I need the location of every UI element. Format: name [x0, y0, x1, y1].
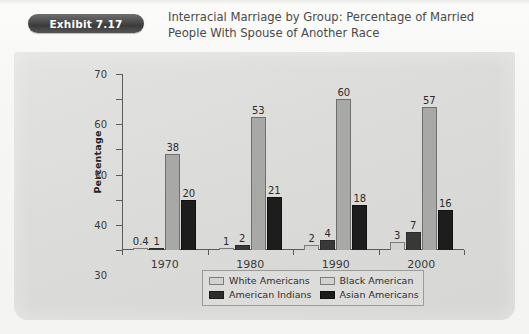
- legend-item[interactable]: White Americans: [209, 274, 312, 287]
- bar-column[interactable]: 53: [251, 74, 266, 250]
- bar-group: 3757162000: [379, 74, 465, 250]
- legend-label: American Indians: [229, 289, 312, 300]
- exhibit-header: Exhibit 7.17 Interracial Marriage by Gro…: [28, 10, 507, 54]
- bar[interactable]: [149, 248, 164, 251]
- legend-swatch: [209, 277, 224, 285]
- legend-label: Black American: [340, 275, 414, 286]
- bar-column[interactable]: 3: [390, 74, 405, 250]
- bar-group: 0.4138201970: [122, 74, 208, 250]
- bar-column[interactable]: 16: [438, 74, 453, 250]
- bar[interactable]: [336, 99, 351, 250]
- y-axis-tick-label: 70: [94, 69, 107, 80]
- bar[interactable]: [133, 248, 148, 250]
- bar-value-label: 18: [353, 193, 366, 204]
- exhibit-title: Interracial Marriage by Group: Percentag…: [168, 10, 507, 41]
- bar-value-label: 2: [239, 233, 245, 244]
- bar[interactable]: [235, 245, 250, 250]
- bar-value-label: 2: [309, 233, 315, 244]
- bar[interactable]: [181, 200, 196, 250]
- bar[interactable]: [267, 197, 282, 250]
- x-axis-tick-label: 1970: [151, 258, 179, 271]
- bar-value-label: 1: [223, 236, 229, 247]
- bar-value-label: 4: [325, 228, 331, 239]
- bar-value-label: 53: [252, 105, 265, 116]
- x-axis-tick: [379, 250, 380, 255]
- bar-column[interactable]: 18: [352, 74, 367, 250]
- exhibit-title-line-2: People With Spouse of Another Race: [168, 26, 507, 42]
- y-axis-title: Percentage: [92, 130, 103, 193]
- bar-column[interactable]: 21: [267, 74, 282, 250]
- chart-legend: White AmericansBlack AmericanAmerican In…: [202, 270, 424, 306]
- bar-group-bars: 246018: [293, 74, 379, 250]
- chart-plot-area: Percentage 010203040506070 0.41382019701…: [122, 74, 464, 250]
- legend-label: White Americans: [229, 275, 310, 286]
- bar-column[interactable]: 2: [235, 74, 250, 250]
- bar-column[interactable]: 57: [422, 74, 437, 250]
- bar-value-label: 0.4: [133, 236, 149, 247]
- bar[interactable]: [304, 245, 319, 250]
- bar[interactable]: [406, 232, 421, 250]
- bar-column[interactable]: 1: [219, 74, 234, 250]
- bar-value-label: 1: [154, 236, 160, 247]
- x-axis-tick: [464, 250, 465, 255]
- bar-column[interactable]: 7: [406, 74, 421, 250]
- bar[interactable]: [422, 107, 437, 250]
- bar-value-label: 57: [423, 95, 436, 106]
- bar-column[interactable]: 4: [320, 74, 335, 250]
- bar-value-label: 3: [394, 230, 400, 241]
- bar[interactable]: [352, 205, 367, 250]
- chart-panel: Percentage 010203040506070 0.41382019701…: [14, 52, 515, 320]
- bar[interactable]: [438, 210, 453, 250]
- bar[interactable]: [390, 242, 405, 250]
- exhibit-number-label: Exhibit 7.17: [28, 14, 144, 33]
- bar-value-label: 21: [268, 185, 281, 196]
- y-axis-tick-label: 30: [94, 270, 107, 281]
- x-axis-tick: [293, 250, 294, 255]
- bar-group-bars: 375716: [379, 74, 465, 250]
- bar-group-bars: 0.413820: [122, 74, 208, 250]
- bar[interactable]: [320, 240, 335, 250]
- bar-group: 1253211980: [208, 74, 294, 250]
- legend-item[interactable]: Asian Americans: [320, 288, 419, 301]
- bar-group-bars: 125321: [208, 74, 294, 250]
- bar[interactable]: [219, 248, 234, 251]
- legend-label: Asian Americans: [340, 289, 419, 300]
- bar-column[interactable]: 1: [149, 74, 164, 250]
- bar-value-label: 7: [410, 220, 416, 231]
- page-background: Exhibit 7.17 Interracial Marriage by Gro…: [0, 0, 529, 334]
- legend-item[interactable]: Black American: [320, 274, 419, 287]
- legend-swatch: [320, 291, 335, 299]
- y-axis-tick-label: 50: [94, 169, 107, 180]
- bar-column[interactable]: 0.4: [133, 74, 148, 250]
- legend-swatch: [320, 277, 335, 285]
- exhibit-title-line-1: Interracial Marriage by Group: Percentag…: [168, 10, 507, 26]
- x-axis-tick: [122, 250, 123, 255]
- bar-column[interactable]: 2: [304, 74, 319, 250]
- bar-value-label: 38: [166, 142, 179, 153]
- bar-column[interactable]: 20: [181, 74, 196, 250]
- legend-item[interactable]: American Indians: [209, 288, 312, 301]
- bar[interactable]: [251, 117, 266, 250]
- bar-column[interactable]: 38: [165, 74, 180, 250]
- page-edge-shadow: [0, 0, 529, 4]
- bar-value-label: 20: [182, 188, 195, 199]
- exhibit-number-badge: Exhibit 7.17: [28, 14, 144, 33]
- bar[interactable]: [165, 154, 180, 250]
- legend-swatch: [209, 291, 224, 299]
- bar-column[interactable]: 60: [336, 74, 351, 250]
- bar-value-label: 16: [439, 198, 452, 209]
- y-axis-tick-label: 60: [94, 119, 107, 130]
- bar-group: 2460181990: [293, 74, 379, 250]
- bar-value-label: 60: [337, 87, 350, 98]
- y-axis-tick-label: 40: [94, 219, 107, 230]
- x-axis-tick: [208, 250, 209, 255]
